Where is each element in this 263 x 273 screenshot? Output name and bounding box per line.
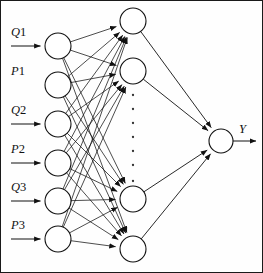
output-nodes <box>209 129 233 153</box>
input-label-6: P3 <box>10 218 25 232</box>
edge-hidden-2-output <box>143 79 208 131</box>
input-label-var-3: Q <box>11 103 20 117</box>
hidden-node-2 <box>120 58 146 84</box>
neural-network-diagram: Q1P1Q2P2Q3P3 Y <box>0 0 263 273</box>
input-label-var-2: P <box>10 64 19 78</box>
edge-input-6-hidden-1 <box>62 38 127 227</box>
output-node <box>209 129 233 153</box>
input-label-var-6: P <box>10 218 19 232</box>
input-label-index-5: 3 <box>20 180 26 194</box>
hidden-node-1 <box>120 8 146 34</box>
input-label-2: P1 <box>10 64 25 78</box>
hidden-ellipsis-dot-5 <box>132 150 134 152</box>
hidden-node-3 <box>120 186 146 212</box>
edge-input-2-hidden-1 <box>68 32 120 76</box>
edge-hidden-4-output <box>141 154 210 239</box>
edge-input-4-hidden-4 <box>67 173 122 236</box>
input-label-var-5: Q <box>11 180 20 194</box>
input-node-1 <box>45 33 71 59</box>
hidden-ellipsis-dots <box>132 94 134 182</box>
input-label-4: P2 <box>10 142 25 156</box>
edge-input-5-hidden-3 <box>71 199 116 200</box>
input-node-5 <box>45 188 71 214</box>
edge-hidden-3-output <box>144 150 207 192</box>
input-label-index-4: 2 <box>19 142 25 156</box>
output-label: Y <box>239 122 248 136</box>
hidden-ellipsis-dot-2 <box>132 108 134 110</box>
hidden-to-output-edges <box>141 31 212 238</box>
input-label-5: Q3 <box>11 180 26 194</box>
input-label-var-1: Q <box>11 25 20 39</box>
hidden-ellipsis-dot-7 <box>132 180 134 182</box>
input-label-3: Q2 <box>11 103 26 117</box>
edge-input-1-hidden-2 <box>70 50 116 65</box>
hidden-ellipsis-dot-3 <box>132 122 134 124</box>
output-label-group: Y <box>239 122 248 136</box>
network-canvas: Q1P1Q2P2Q3P3 Y <box>1 1 263 273</box>
hidden-ellipsis-dot-4 <box>132 136 134 138</box>
input-label-index-1: 1 <box>20 25 26 39</box>
edge-input-4-hidden-3 <box>70 169 118 192</box>
edge-input-5-hidden-2 <box>64 86 124 190</box>
edge-input-6-hidden-4 <box>71 241 116 247</box>
input-node-4 <box>45 150 71 176</box>
hidden-ellipsis-dot-1 <box>132 94 134 96</box>
input-label-var-4: P <box>10 142 19 156</box>
input-node-2 <box>45 72 71 98</box>
edge-hidden-1-output <box>141 31 212 127</box>
input-node-6 <box>45 226 71 252</box>
input-node-3 <box>45 111 71 137</box>
edge-input-3-hidden-4 <box>65 135 124 234</box>
input-to-hidden-edges <box>62 27 127 247</box>
input-label-index-3: 2 <box>20 103 26 117</box>
input-label-index-2: 1 <box>19 64 25 78</box>
input-label-index-6: 3 <box>19 218 25 232</box>
hidden-ellipsis-dot-6 <box>132 164 134 166</box>
hidden-node-4 <box>120 236 146 262</box>
edge-input-1-hidden-1 <box>70 27 116 42</box>
edge-input-6-hidden-3 <box>69 207 117 233</box>
input-label-1: Q1 <box>11 25 26 39</box>
